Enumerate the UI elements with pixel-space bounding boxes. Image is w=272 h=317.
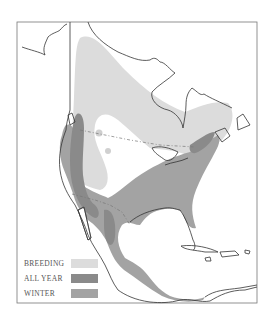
legend: BREEDING ALL YEAR WINTER <box>24 256 98 301</box>
legend-swatch-all-year <box>71 274 98 283</box>
legend-label: ALL YEAR <box>24 274 71 283</box>
legend-label: BREEDING <box>24 259 71 268</box>
legend-item-winter: WINTER <box>24 286 98 301</box>
legend-swatch-winter <box>71 289 98 298</box>
legend-item-all-year: ALL YEAR <box>24 271 98 286</box>
legend-swatch-breeding <box>71 259 98 268</box>
legend-item-breeding: BREEDING <box>24 256 98 271</box>
legend-label: WINTER <box>24 289 71 298</box>
